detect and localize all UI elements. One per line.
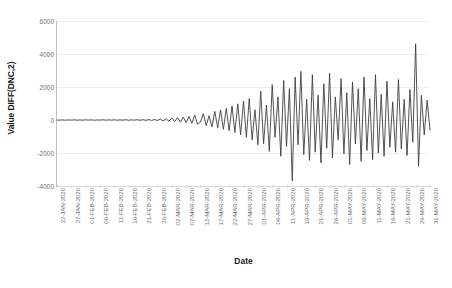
x-tick-label: 01-APR-2020 bbox=[260, 188, 267, 224]
x-tick-mark bbox=[330, 185, 331, 188]
x-tick-mark bbox=[200, 185, 201, 188]
x-tick-mark bbox=[129, 185, 130, 188]
x-tick-label: 26-MAY-2020 bbox=[418, 188, 425, 224]
y-tick-label: 2000 bbox=[22, 84, 54, 91]
x-tick-mark bbox=[143, 185, 144, 188]
y-tick-label: -4000 bbox=[22, 183, 54, 190]
series-polyline bbox=[57, 44, 430, 181]
x-tick-label: 31-MAY-2020 bbox=[432, 188, 439, 224]
x-tick-label: 06-MAY-2020 bbox=[360, 188, 367, 224]
x-axis-title: Date bbox=[57, 256, 430, 266]
x-tick-mark bbox=[373, 185, 374, 188]
x-tick-label: 21-FEB-2020 bbox=[145, 188, 152, 224]
x-tick-label: 01-MAY-2020 bbox=[346, 188, 353, 224]
x-tick-mark bbox=[86, 185, 87, 188]
x-tick-label: 26-APR-2020 bbox=[332, 188, 339, 224]
x-tick-mark bbox=[100, 185, 101, 188]
x-tick-label: 27-MAR-2020 bbox=[246, 188, 253, 225]
x-tick-label: 06-APR-2020 bbox=[274, 188, 281, 224]
data-series-line bbox=[57, 21, 430, 186]
x-tick-mark bbox=[344, 185, 345, 188]
x-tick-label: 16-FEB-2020 bbox=[131, 188, 138, 224]
x-tick-mark bbox=[416, 185, 417, 188]
x-tick-label: 11-APR-2020 bbox=[289, 188, 296, 224]
x-tick-mark bbox=[157, 185, 158, 188]
y-tick-label: -2000 bbox=[22, 150, 54, 157]
x-tick-label: 22-MAR-2020 bbox=[231, 188, 238, 225]
x-tick-mark bbox=[57, 185, 58, 188]
y-tick-label: 6000 bbox=[22, 18, 54, 25]
x-tick-label: 12-MAR-2020 bbox=[203, 188, 210, 225]
x-tick-mark bbox=[71, 185, 72, 188]
x-tick-mark bbox=[287, 185, 288, 188]
x-tick-label: 26-FEB-2020 bbox=[160, 188, 167, 224]
x-tick-label: 21-APR-2020 bbox=[317, 188, 324, 224]
x-tick-label: 16-MAY-2020 bbox=[389, 188, 396, 224]
x-tick-mark bbox=[301, 185, 302, 188]
plot-area bbox=[57, 21, 430, 186]
y-tick-label: 4000 bbox=[22, 51, 54, 58]
x-tick-label: 17-MAR-2020 bbox=[217, 188, 224, 225]
x-tick-mark bbox=[401, 185, 402, 188]
x-tick-label: 01-FEB-2020 bbox=[88, 188, 95, 224]
x-tick-label: 11-FEB-2020 bbox=[117, 188, 124, 223]
x-tick-mark bbox=[172, 185, 173, 188]
x-tick-mark bbox=[186, 185, 187, 188]
y-axis-title-label: Value DIFF(DNC,2) bbox=[6, 61, 16, 134]
x-tick-label: 16-APR-2020 bbox=[303, 188, 310, 224]
y-tick-label: 0 bbox=[22, 117, 54, 124]
y-axis-tick-labels: 6000400020000-2000-4000 bbox=[18, 0, 54, 288]
x-tick-mark bbox=[215, 185, 216, 188]
line-chart: Value DIFF(DNC,2) 6000400020000-2000-400… bbox=[0, 0, 452, 288]
x-tick-label: 02-MAR-2020 bbox=[174, 188, 181, 225]
x-tick-mark bbox=[387, 185, 388, 188]
x-tick-label: 11-MAY-2020 bbox=[375, 188, 382, 224]
x-tick-label: 27-JAN-2020 bbox=[74, 188, 81, 223]
x-tick-mark bbox=[244, 185, 245, 188]
x-tick-label: 22-JAN-2020 bbox=[59, 188, 66, 223]
x-tick-mark bbox=[430, 185, 431, 188]
x-tick-mark bbox=[258, 185, 259, 188]
x-tick-label: 07-MAR-2020 bbox=[188, 188, 195, 225]
x-tick-label: 06-FEB-2020 bbox=[102, 188, 109, 224]
x-tick-mark bbox=[114, 185, 115, 188]
x-tick-mark bbox=[229, 185, 230, 188]
x-tick-label: 21-MAY-2020 bbox=[404, 188, 411, 224]
x-axis-tick-labels: 22-JAN-202027-JAN-202001-FEB-202006-FEB-… bbox=[57, 188, 430, 250]
